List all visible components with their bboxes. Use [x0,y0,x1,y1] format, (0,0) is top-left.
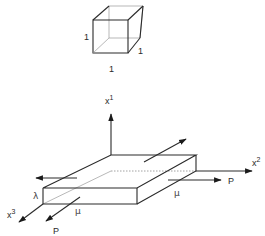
lambda-label: λ [33,191,39,201]
diagram-canvas: 1 1 1 x1 x2 x3 [0,0,265,236]
cube-height-label: 1 [84,32,89,42]
cube-edge [93,6,109,20]
plate-front-face [43,188,137,204]
cube-edge-hidden [93,38,109,53]
coordinate-axes: x1 x2 x3 [7,94,261,222]
x3-axis-label: x3 [7,208,16,220]
x1-axis-label: x1 [105,94,114,106]
force-label-right: P [228,176,234,186]
cube-edge [140,6,143,38]
x2-axis-label: x2 [252,156,261,168]
unit-cube: 1 1 1 [84,6,143,74]
mu-label-front: μ [75,206,81,216]
plate-top-face [43,155,196,188]
shear-arrow-top-back [144,139,186,162]
x3-axis-arrow [19,204,43,222]
cube-width-label: 1 [109,64,114,74]
cube-depth-label: 1 [138,46,143,56]
force-label-front: P [53,226,59,236]
cube-edge [128,6,143,20]
mu-label-right: μ [174,188,180,198]
